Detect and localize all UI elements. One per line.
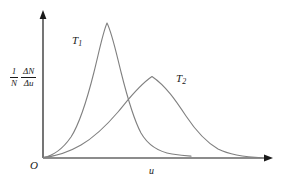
y-axis-ratio-numerator: ΔN [21, 67, 36, 78]
y-axis-label: 1 N ΔN Δu [9, 67, 36, 89]
curve-label-t2: T2 [176, 73, 186, 86]
x-axis-label: u [149, 166, 154, 176]
y-axis-ratio-fraction: ΔN Δu [21, 67, 36, 89]
y-axis-arrowhead [40, 10, 47, 19]
curve-t1 [43, 23, 191, 158]
maxwell-distribution-figure: 1 N ΔN Δu T1 T2 O u [0, 0, 287, 186]
y-axis-prefactor-denominator: N [9, 78, 19, 88]
x-axis-arrowhead [264, 155, 273, 162]
y-axis-prefactor-numerator: 1 [10, 67, 19, 78]
curve-label-t1: T1 [72, 35, 82, 48]
plot-canvas [0, 0, 287, 186]
y-axis-prefactor-fraction: 1 N [9, 67, 19, 89]
curve-label-t1-subscript: 1 [78, 39, 82, 48]
curve-label-t2-subscript: 2 [182, 77, 186, 86]
y-axis-ratio-denominator: Δu [22, 78, 36, 88]
origin-label: O [30, 160, 38, 171]
